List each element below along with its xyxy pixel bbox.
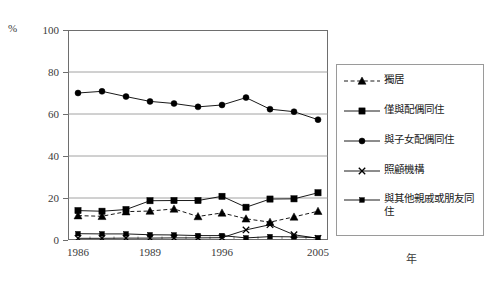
y-tick-label: 40 <box>48 150 59 162</box>
legend-item-label: 獨居 <box>381 73 404 86</box>
y-tick-label: 60 <box>48 108 59 120</box>
x-tick-label: 1996 <box>211 246 233 258</box>
y-tick-label: 20 <box>48 192 59 204</box>
series-3 <box>75 88 321 122</box>
x-tick-label: 1989 <box>139 246 161 258</box>
series-1 <box>74 205 322 226</box>
y-tick-label: 100 <box>43 24 60 36</box>
plot-series-canvas <box>68 30 328 240</box>
y-tick-label: 80 <box>48 66 59 78</box>
legend-item-3[interactable]: 與子女配偶同住 <box>343 133 483 148</box>
legend-item-label: 與其他親戚或朋友同住 <box>381 192 483 218</box>
line-chart: % 年 020406080100 1986198919962005 獨居僅與配偶… <box>0 0 494 286</box>
square-marker <box>343 104 381 118</box>
legend-item-4[interactable]: 照顧機構 <box>343 163 483 178</box>
small-square-marker <box>343 193 381 207</box>
x-tick-label: 1986 <box>67 246 89 258</box>
x-marker <box>343 164 381 178</box>
circle-marker <box>343 134 381 148</box>
y-tick-label: 0 <box>54 234 60 246</box>
legend-item-5[interactable]: 與其他親戚或朋友同住 <box>343 192 483 218</box>
y-axis-tick-labels: 020406080100 <box>0 0 68 286</box>
legend-item-label: 照顧機構 <box>381 163 424 176</box>
legend-item-label: 僅與配偶同住 <box>381 103 444 116</box>
x-axis-unit-label: 年 <box>406 250 417 266</box>
legend-item-1[interactable]: 獨居 <box>343 73 483 88</box>
chart-legend: 獨居僅與配偶同住與子女配偶同住照顧機構與其他親戚或朋友同住 <box>336 64 484 236</box>
series-2 <box>75 190 321 215</box>
x-tick-label: 2005 <box>307 246 329 258</box>
legend-item-2[interactable]: 僅與配偶同住 <box>343 103 483 118</box>
y-tick-mark <box>63 240 68 241</box>
legend-item-label: 與子女配偶同住 <box>381 133 454 146</box>
triangle-marker <box>343 74 381 88</box>
